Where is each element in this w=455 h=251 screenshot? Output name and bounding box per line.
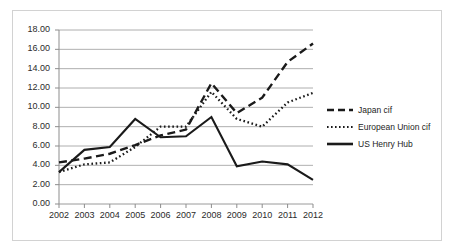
y-tick-label: 2.00 <box>14 179 50 189</box>
y-tick-label: 6.00 <box>14 140 50 150</box>
x-tick-label: 2004 <box>97 210 123 220</box>
legend-item-japan-cif: Japan cif <box>327 101 451 118</box>
x-tick-label: 2012 <box>300 210 326 220</box>
x-tick-label: 2011 <box>275 210 301 220</box>
x-tick-marks-group <box>59 204 313 208</box>
legend-label-japan-cif: Japan cif <box>358 105 392 115</box>
legend-label-us-henry-hub: US Henry Hub <box>358 139 413 149</box>
legend-swatch-dashed <box>327 105 353 115</box>
x-tick-label: 2003 <box>71 210 97 220</box>
y-tick-label: 8.00 <box>14 121 50 131</box>
chart-legend: Japan cif European Union cif US Henry Hu… <box>327 101 451 152</box>
legend-item-us-henry-hub: US Henry Hub <box>327 135 451 152</box>
y-tick-label: 10.00 <box>14 101 50 111</box>
y-tick-label: 16.00 <box>14 43 50 53</box>
series-paths-group <box>59 44 313 180</box>
x-tick-label: 2007 <box>173 210 199 220</box>
x-tick-label: 2005 <box>122 210 148 220</box>
legend-swatch-solid <box>327 139 353 149</box>
series-line-european-union-cif <box>59 92 313 172</box>
legend-item-european-union-cif: European Union cif <box>327 118 451 135</box>
y-tick-label: 18.00 <box>14 24 50 34</box>
series-line-japan-cif <box>59 44 313 163</box>
x-tick-label: 2008 <box>198 210 224 220</box>
y-tick-label: 0.00 <box>14 198 50 208</box>
x-tick-label: 2009 <box>224 210 250 220</box>
legend-swatch-dotted <box>327 122 353 132</box>
gridlines-group <box>55 30 313 204</box>
x-tick-label: 2002 <box>46 210 72 220</box>
x-tick-label: 2006 <box>148 210 174 220</box>
chart-figure: 0.002.004.006.008.0010.0012.0014.0016.00… <box>0 0 455 251</box>
legend-label-european-union-cif: European Union cif <box>358 122 430 132</box>
y-tick-label: 4.00 <box>14 159 50 169</box>
x-tick-label: 2010 <box>249 210 275 220</box>
y-tick-label: 12.00 <box>14 82 50 92</box>
y-tick-label: 14.00 <box>14 63 50 73</box>
